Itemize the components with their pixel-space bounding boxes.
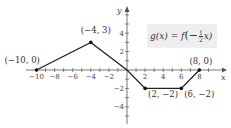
y-axis-label: y xyxy=(116,6,122,15)
point-label: (6, −2) xyxy=(184,89,214,99)
point-label: (−4, 3) xyxy=(81,25,111,35)
point-label: (2, −2) xyxy=(148,89,178,99)
formula-x: x) xyxy=(204,31,213,41)
x-tick-label: 6 xyxy=(179,73,184,81)
x-tick-label: 4 xyxy=(161,73,166,81)
x-tick-label: −4 xyxy=(86,73,97,81)
y-tick-label: −4 xyxy=(114,103,125,111)
y-tick-label: −2 xyxy=(114,85,124,93)
x-axis-arrow-icon xyxy=(222,68,227,73)
x-tick-label: −2 xyxy=(104,73,114,81)
data-point xyxy=(143,87,147,91)
x-tick-label: 2 xyxy=(143,73,147,81)
point-label: (−10, 0) xyxy=(5,55,40,65)
data-point xyxy=(89,41,93,45)
formula-label: g(x) = f(−12x) xyxy=(150,29,212,43)
fraction-denominator: 2 xyxy=(199,37,203,43)
data-points xyxy=(35,41,202,91)
series-line xyxy=(37,42,200,88)
x-tick-label: −8 xyxy=(49,73,59,81)
x-tick-label: −6 xyxy=(68,73,79,81)
x-tick-label: 8 xyxy=(197,73,201,81)
data-point xyxy=(35,68,39,72)
data-point xyxy=(198,68,202,72)
point-label: (8, 0) xyxy=(189,56,212,66)
graph: −10−8−6−4−22468 −4−224 x y (−10, 0)(−4, … xyxy=(0,0,231,128)
formula-arg: (− xyxy=(184,29,198,42)
data-point xyxy=(180,87,184,91)
y-tick-label: 4 xyxy=(120,30,125,38)
x-tick-labels: −10−8−6−4−22468 xyxy=(29,73,202,81)
y-axis-arrow-icon xyxy=(125,6,130,12)
y-tick-label: 2 xyxy=(120,48,124,56)
x-tick-label: −10 xyxy=(29,73,44,81)
formula-fraction: 12 xyxy=(199,30,203,43)
formula-g: g(x) = f xyxy=(150,31,184,41)
y-tick-labels: −4−224 xyxy=(114,30,125,112)
x-axis-label: x xyxy=(221,73,226,82)
